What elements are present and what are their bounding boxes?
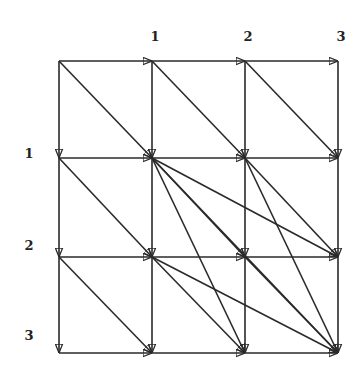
edge-arrow	[245, 158, 338, 353]
column-label-2: 2	[243, 29, 252, 44]
edges-group	[59, 61, 338, 353]
edge-arrow	[152, 257, 245, 353]
edge-arrow	[245, 61, 338, 158]
edge-arrow	[152, 61, 245, 158]
edge-arrow	[59, 158, 152, 257]
column-label-3: 3	[336, 29, 345, 44]
row-label-1: 1	[24, 146, 33, 161]
edge-arrow	[152, 158, 245, 353]
row-label-3: 3	[24, 328, 33, 343]
column-label-1: 1	[150, 29, 159, 44]
row-label-2: 2	[24, 238, 33, 253]
grid-graph-diagram: 1 2 3 1 2 3	[0, 0, 363, 374]
edge-arrow	[245, 158, 338, 257]
edge-arrow	[59, 61, 152, 158]
edge-arrow	[59, 257, 152, 353]
edge-arrow	[245, 257, 338, 353]
